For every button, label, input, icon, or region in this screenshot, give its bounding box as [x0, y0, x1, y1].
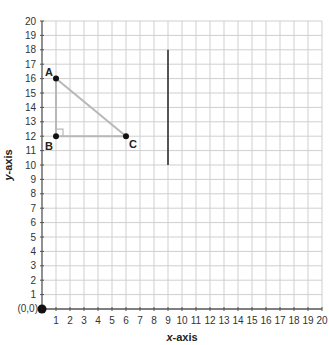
y-tick-label: 13 [25, 116, 37, 127]
y-tick-label: 14 [25, 102, 37, 113]
y-tick-label: 10 [25, 160, 37, 171]
y-tick-label: 7 [30, 203, 36, 214]
grid-lines [42, 21, 322, 309]
x-tick-label: 14 [232, 315, 244, 326]
x-tick-label: 4 [95, 315, 101, 326]
point-label-C: C [129, 138, 137, 150]
x-tick-label: 17 [274, 315, 286, 326]
y-tick-label: 6 [30, 217, 36, 228]
x-tick-label: 1 [53, 315, 59, 326]
y-tick-label: 11 [26, 145, 37, 156]
x-tick-label: 3 [81, 315, 87, 326]
point-label-B: B [45, 140, 53, 152]
y-tick-label: 9 [30, 174, 36, 185]
point-label-A: A [45, 66, 53, 78]
origin-point [38, 305, 47, 314]
y-tick-label: 15 [25, 88, 37, 99]
x-tick-label: 18 [288, 315, 300, 326]
x-tick-label: 2 [67, 315, 73, 326]
coordinate-grid-chart: 1234567891011121314151617181920123456789… [0, 0, 329, 345]
y-tick-label: 3 [30, 260, 36, 271]
y-tick-label: 20 [25, 16, 37, 27]
point-B [53, 133, 59, 139]
y-tick-label: 8 [30, 188, 36, 199]
y-tick-label: 19 [25, 30, 37, 41]
y-tick-label: 17 [25, 59, 37, 70]
y-axis-label: y-axis [2, 149, 14, 181]
y-tick-label: 1 [30, 289, 36, 300]
x-tick-label: 7 [137, 315, 143, 326]
x-tick-label: 11 [191, 315, 202, 326]
y-tick-label: 18 [25, 44, 37, 55]
x-tick-label: 5 [109, 315, 115, 326]
point-A [53, 76, 59, 82]
x-tick-label: 13 [218, 315, 230, 326]
points: ABC [38, 66, 138, 314]
x-tick-label: 6 [123, 315, 129, 326]
y-tick-label: 16 [25, 73, 37, 84]
x-tick-label: 9 [165, 315, 171, 326]
x-axis-rest: -axis [173, 331, 198, 343]
x-tick-label: 20 [316, 315, 328, 326]
x-tick-label: 19 [302, 315, 314, 326]
y-tick-label: 5 [30, 232, 36, 243]
x-axis-label: x-axis [165, 331, 197, 343]
x-tick-label: 12 [204, 315, 216, 326]
x-tick-label: 10 [176, 315, 188, 326]
y-tick-label: 2 [30, 275, 36, 286]
y-axis-rest: -axis [2, 149, 14, 174]
y-tick-label: 4 [30, 246, 36, 257]
origin-label: (0,0) [17, 303, 38, 314]
x-tick-label: 15 [246, 315, 258, 326]
x-tick-label: 16 [260, 315, 272, 326]
x-tick-label: 8 [151, 315, 157, 326]
y-tick-label: 12 [25, 131, 37, 142]
